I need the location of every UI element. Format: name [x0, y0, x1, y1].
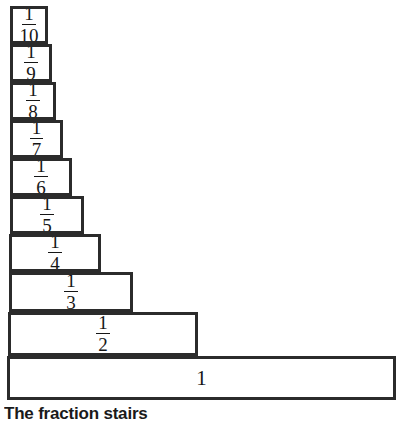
fraction-numerator: 1 — [24, 44, 38, 63]
fraction-label: 17 — [30, 120, 44, 158]
fraction-label: 16 — [34, 158, 48, 196]
fraction-denominator: 10 — [18, 25, 41, 45]
fraction-bar: 14 — [9, 234, 101, 272]
fraction-bar: 17 — [10, 120, 63, 158]
fraction-denominator: 6 — [34, 177, 48, 197]
fraction-numerator: 1 — [26, 82, 40, 101]
fraction-numerator: 1 — [34, 158, 48, 177]
fraction-label: 14 — [48, 234, 62, 272]
fraction-label: 13 — [64, 272, 78, 312]
fraction-numerator: 1 — [48, 234, 62, 253]
fraction-bar: 18 — [10, 82, 56, 120]
fraction-numerator: 1 — [40, 196, 54, 215]
fraction-stairs-figure: 11019181716151413121 The fraction stairs — [0, 0, 406, 421]
fraction-numerator: 1 — [96, 313, 110, 334]
fraction-denominator: 7 — [30, 139, 44, 159]
fraction-label: 19 — [24, 44, 38, 82]
fraction-denominator: 3 — [64, 292, 78, 312]
fraction-bar: 110 — [10, 6, 48, 44]
fraction-numerator: 1 — [64, 272, 78, 292]
fraction-bar: 15 — [10, 196, 84, 234]
fraction-bar: 13 — [9, 272, 133, 312]
fraction-denominator: 9 — [24, 63, 38, 83]
fraction-denominator: 5 — [40, 215, 54, 235]
fraction-numerator: 1 — [30, 120, 44, 139]
fraction-numerator: 1 — [22, 6, 36, 25]
figure-caption: The fraction stairs — [4, 404, 402, 421]
fraction-denominator: 8 — [26, 101, 40, 121]
fraction-label: 15 — [40, 196, 54, 234]
fraction-label: 110 — [18, 6, 41, 44]
fraction-denominator: 4 — [48, 253, 62, 273]
fraction-label: 18 — [26, 82, 40, 120]
whole-label: 1 — [196, 368, 207, 389]
fraction-bar: 1 — [7, 356, 396, 400]
fraction-label: 12 — [96, 313, 110, 354]
fraction-denominator: 2 — [96, 334, 110, 354]
fraction-bar: 12 — [8, 312, 198, 356]
fraction-bar: 19 — [10, 44, 52, 82]
fraction-bar: 16 — [10, 158, 72, 196]
